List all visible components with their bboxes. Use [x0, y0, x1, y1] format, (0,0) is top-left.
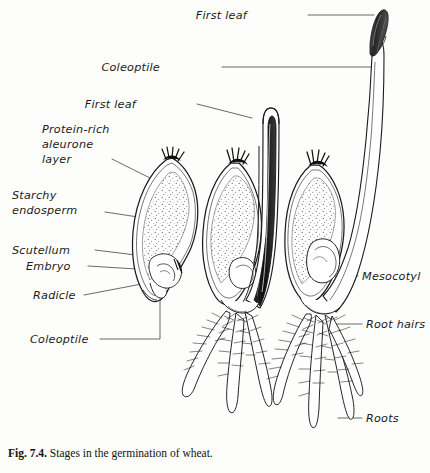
figure-caption-text: Stages in the germination of wheat.	[50, 447, 213, 459]
figure-caption: Fig. 7.4. Stages in the germination of w…	[8, 446, 422, 460]
roots-stage-2	[182, 311, 272, 413]
label-starchy-line1: Starchy	[12, 189, 57, 202]
label-starchy-line2: endosperm	[12, 204, 77, 217]
label-protein-rich-line1: Protein-rich	[42, 123, 110, 136]
label-embryo: Embryo	[26, 260, 71, 273]
label-coleoptile-top: Coleoptile	[101, 61, 160, 74]
label-mesocotyl: Mesocotyl	[362, 270, 421, 283]
label-protein-rich-line2: aleurone	[42, 138, 93, 151]
figure-germination-of-wheat: First leaf Coleoptile First leaf Protein…	[0, 0, 430, 473]
label-radicle: Radicle	[33, 289, 76, 302]
label-root-hairs: Root hairs	[366, 318, 425, 331]
label-first-leaf-mid: First leaf	[85, 98, 138, 111]
stage-3-late-germination	[267, 10, 388, 428]
figure-number: Fig. 7.4.	[8, 447, 47, 459]
illustration-plate: First leaf Coleoptile First leaf Protein…	[0, 0, 430, 440]
label-first-leaf-top: First leaf	[196, 9, 249, 22]
label-scutellum: Scutellum	[12, 244, 70, 257]
stage-2-early-germination	[182, 108, 279, 413]
label-roots: Roots	[366, 412, 399, 425]
stage-1-ungerminated-grain	[132, 147, 197, 302]
label-coleoptile-left: Coleoptile	[30, 333, 89, 346]
label-protein-rich-line3: layer	[42, 153, 72, 166]
